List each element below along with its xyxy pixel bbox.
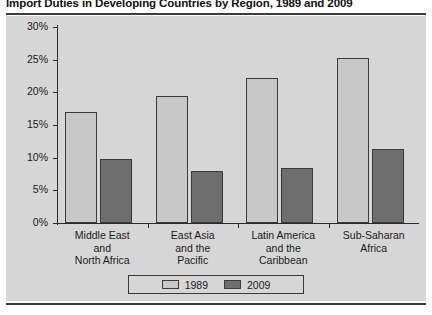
x-axis-category-line: Sub-Saharan [319,229,429,242]
legend-label-1989: 1989 [185,279,208,291]
y-axis-tick-label: 5% [33,183,48,195]
chart-title: Import Duties in Developing Countries by… [6,0,426,9]
y-axis-tick-label: 10% [27,151,48,163]
legend-swatch-1989 [162,280,179,289]
legend-swatch-2009 [224,280,241,289]
bar-2009 [372,149,404,223]
x-axis-category-line: Caribbean [228,254,338,267]
title-divider-top [6,13,426,15]
y-axis-tick-label: 30% [27,20,48,32]
bar-2009 [191,171,223,223]
y-axis-tick-label: 25% [27,53,48,65]
bar-1989 [337,58,369,223]
bar-1989 [246,78,278,223]
bar-1989 [156,96,188,223]
bar-group [238,27,329,223]
bar-2009 [281,168,313,223]
legend-item-1989: 1989 [162,279,208,291]
bar-group [148,27,239,223]
x-axis-category-line: Africa [319,242,429,255]
bar-group [57,27,148,223]
plot-area [57,27,419,223]
legend-label-2009: 2009 [247,279,270,291]
y-axis-tick-label: 15% [27,118,48,130]
x-axis-tick-mark [329,223,330,228]
chart-figure: Import Duties in Developing Countries by… [0,0,432,315]
bar-group [329,27,420,223]
x-axis-tick-mark [238,223,239,228]
bar-1989 [65,112,97,223]
y-axis-tick-label: 20% [27,85,48,97]
x-axis-category-label: Sub-SaharanAfrica [319,229,429,254]
chart-legend: 19892009 [128,275,304,294]
y-axis-tick-label: 0% [33,216,48,228]
legend-item-2009: 2009 [224,279,270,291]
bar-2009 [100,159,132,223]
x-axis-tick-mark [148,223,149,228]
y-axis-tick-mark [53,223,57,224]
title-divider-bottom [6,303,426,305]
